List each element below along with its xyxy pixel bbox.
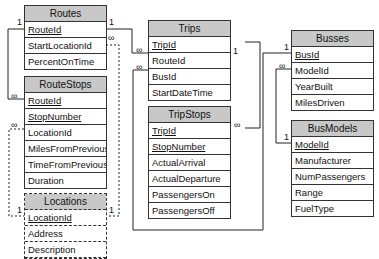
field-description[interactable]: Description bbox=[25, 242, 106, 258]
table-title: TripStops bbox=[149, 107, 230, 123]
cardinality-one: 1 bbox=[109, 206, 114, 215]
cardinality-one: 1 bbox=[109, 18, 114, 27]
field-passengerson[interactable]: PassengersOn bbox=[149, 187, 230, 203]
table-trips[interactable]: Trips TripId RouteId BusId StartDateTime bbox=[148, 20, 231, 101]
cardinality-many: ∞ bbox=[234, 121, 240, 130]
cardinality-many: ∞ bbox=[136, 63, 142, 72]
field-percentontime[interactable]: PercentOnTime bbox=[25, 54, 106, 69]
field-actualdeparture[interactable]: ActualDeparture bbox=[149, 171, 230, 187]
field-milesfromprevious[interactable]: MilesFromPrevious bbox=[25, 141, 106, 157]
field-timefromprevious[interactable]: TimeFromPrevious bbox=[25, 157, 106, 173]
field-actualarrival[interactable]: ActualArrival bbox=[149, 155, 230, 171]
cardinality-many: ∞ bbox=[108, 34, 114, 43]
field-locationid[interactable]: LocationId bbox=[25, 125, 106, 141]
field-startdatetime[interactable]: StartDateTime bbox=[149, 85, 230, 100]
field-startlocationid[interactable]: StartLocationId bbox=[25, 38, 106, 54]
field-duration[interactable]: Duration bbox=[25, 173, 106, 188]
cardinality-many: ∞ bbox=[11, 121, 17, 130]
cardinality-one: 1 bbox=[233, 47, 238, 56]
field-modelid[interactable]: ModelId bbox=[292, 63, 373, 79]
field-stopnumber[interactable]: StopNumber bbox=[25, 109, 106, 125]
table-tripstops[interactable]: TripStops TripId StopNumber ActualArriva… bbox=[148, 106, 231, 219]
field-fueltype[interactable]: FuelType bbox=[292, 201, 373, 216]
field-address[interactable]: Address bbox=[25, 226, 106, 242]
cardinality-many: ∞ bbox=[136, 46, 142, 55]
table-busses[interactable]: Busses BusId ModelId YearBuilt MilesDriv… bbox=[291, 30, 374, 111]
field-manufacturer[interactable]: Manufacturer bbox=[292, 153, 373, 169]
table-title: BusModels bbox=[292, 121, 373, 137]
table-routestops[interactable]: RouteStops RouteId StopNumber LocationId… bbox=[24, 76, 107, 189]
field-routeid[interactable]: RouteId bbox=[25, 93, 106, 109]
field-tripid[interactable]: TripId bbox=[149, 37, 230, 53]
table-title: Routes bbox=[25, 6, 106, 22]
table-title: Trips bbox=[149, 21, 230, 37]
field-tripid[interactable]: TripId bbox=[149, 123, 230, 139]
cardinality-many: ∞ bbox=[279, 62, 285, 71]
field-busid[interactable]: BusId bbox=[292, 47, 373, 63]
table-title: Busses bbox=[292, 31, 373, 47]
field-milesdriven[interactable]: MilesDriven bbox=[292, 95, 373, 110]
field-modelid[interactable]: ModelId bbox=[292, 137, 373, 153]
table-busmodels[interactable]: BusModels ModelId Manufacturer NumPassen… bbox=[291, 120, 374, 217]
table-routes[interactable]: Routes RouteId StartLocationId PercentOn… bbox=[24, 5, 107, 70]
table-locations[interactable]: Locations LocationId Address Description bbox=[24, 193, 107, 259]
field-passengersoff[interactable]: PassengersOff bbox=[149, 203, 230, 218]
cardinality-one: 1 bbox=[284, 43, 289, 52]
field-range[interactable]: Range bbox=[292, 185, 373, 201]
field-numpassengers[interactable]: NumPassengers bbox=[292, 169, 373, 185]
field-routeid[interactable]: RouteId bbox=[25, 22, 106, 38]
cardinality-many: ∞ bbox=[11, 92, 17, 101]
cardinality-one: 1 bbox=[284, 133, 289, 142]
field-yearbuilt[interactable]: YearBuilt bbox=[292, 79, 373, 95]
field-busid[interactable]: BusId bbox=[149, 69, 230, 85]
cardinality-one: 1 bbox=[17, 18, 22, 27]
field-locationid[interactable]: LocationId bbox=[25, 210, 106, 226]
table-title: RouteStops bbox=[25, 77, 106, 93]
cardinality-one: 1 bbox=[17, 206, 22, 215]
field-stopnumber[interactable]: StopNumber bbox=[149, 139, 230, 155]
table-title: Locations bbox=[25, 194, 106, 210]
field-routeid[interactable]: RouteId bbox=[149, 53, 230, 69]
